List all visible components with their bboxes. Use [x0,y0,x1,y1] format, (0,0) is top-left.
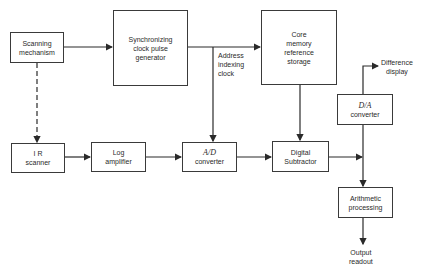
block-label: Digital Subtractor [284,148,316,166]
block-digital-subtractor: Digital Subtractor [272,141,329,172]
label-address-indexing-clock: Address indexing clock [218,51,244,78]
block-da-converter: D/A converter [337,94,393,125]
block-sync-clock-generator: Synchronizing clock pulse generator [113,10,188,86]
block-label: Core memory reference storage [284,30,314,66]
block-ir-scanner: I R scanner [11,143,65,173]
block-log-amplifier: Log amplifier [91,142,146,172]
block-label: Synchronizing clock pulse generator [129,35,173,62]
block-label: Log amplifier [105,148,131,166]
block-label: Scanning mechanism [19,39,55,57]
block-label: converter [350,110,379,119]
block-label-title: A/D [203,148,216,157]
block-arithmetic-processing: Arithmetic processing [338,187,393,218]
block-label: Arithmetic processing [349,194,383,212]
label-output-readout: Output readout [349,248,373,266]
block-core-memory: Core memory reference storage [261,10,337,85]
block-label: converter [195,157,224,166]
block-label-title: D/A [359,101,372,110]
label-difference-display: Difference display [381,58,413,76]
block-scanning-mechanism: Scanning mechanism [10,32,64,63]
block-ad-converter: A/D converter [182,142,237,172]
block-label: I R scanner [26,149,51,167]
